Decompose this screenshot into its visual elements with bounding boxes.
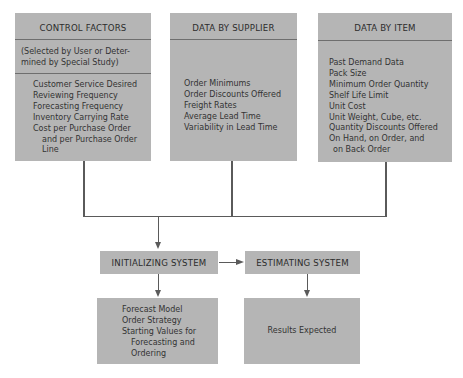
connector-data-by-supplier [231,161,233,217]
list-item: Inventory Carrying Rate [33,113,137,124]
list-item: Freight Rates [184,101,281,112]
control-factors-box: CONTROL FACTORS (Selected by User or Det… [15,13,151,161]
list-item: Pack Size [329,69,438,80]
estimating-system-title: ESTIMATING SYSTEM [245,258,360,268]
divider [15,39,151,40]
list-item: Unit Cost [329,102,438,113]
list-item: Forecasting Frequency [33,102,137,113]
arrow-down-icon [155,290,161,297]
list-item: Quantity Discounts Offered [329,123,438,134]
estimating-output-box: Results Expected [244,298,360,364]
list-item: On Hand, on Order, and [329,134,438,145]
results-expected-label: Results Expected [244,326,360,335]
data-by-item-list: Past Demand Data Pack Size Minimum Order… [329,58,438,156]
list-item: Unit Weight, Cube, etc. [329,113,438,124]
data-by-item-title: DATA BY ITEM [318,23,452,33]
control-factors-subtitle: (Selected by User or Deter- mined by Spe… [21,46,147,68]
list-item: Forecast Model [122,305,196,316]
list-item: and per Purchase Order [33,135,137,146]
connector-estimating-to-output [307,274,309,291]
list-item: Order Discounts Offered [184,90,281,101]
list-item: Reviewing Frequency [33,91,137,102]
connector-to-initializing [158,216,160,243]
data-by-supplier-list: Order Minimums Order Discounts Offered F… [184,79,281,134]
list-item: Order Minimums [184,79,281,90]
connector-init-to-estimating [219,262,237,264]
connector-init-to-output [158,274,160,291]
connector-horizontal-bus [83,216,387,218]
initializing-output-box: Forecast Model Order Strategy Starting V… [97,298,218,364]
data-by-supplier-box: DATA BY SUPPLIER Order Minimums Order Di… [170,13,297,161]
list-item: Customer Service Desired [33,80,137,91]
data-by-item-box: DATA BY ITEM Past Demand Data Pack Size … [318,13,452,162]
initializing-system-box: INITIALIZING SYSTEM [100,251,218,274]
estimating-system-box: ESTIMATING SYSTEM [245,251,360,274]
subtitle-line: (Selected by User or Deter- [21,46,147,57]
list-item: Ordering [122,349,196,360]
data-by-supplier-title: DATA BY SUPPLIER [170,23,297,33]
list-item: Line [33,145,137,156]
list-item: Starting Values for [122,327,196,338]
list-item: on Back Order [329,145,438,156]
connector-control-factors [83,161,85,217]
divider [170,39,297,40]
initializing-output-list: Forecast Model Order Strategy Starting V… [122,305,196,360]
list-item: Shelf Life Limit [329,91,438,102]
control-factors-list: Customer Service Desired Reviewing Frequ… [33,80,137,156]
subtitle-line: mined by Special Study) [21,57,147,68]
list-item: Order Strategy [122,316,196,327]
divider [15,73,151,74]
control-factors-title: CONTROL FACTORS [15,23,151,33]
list-item: Average Lead Time [184,112,281,123]
arrow-down-icon [155,242,161,249]
arrow-down-icon [304,290,310,297]
arrow-right-icon [236,259,244,265]
list-item: Past Demand Data [329,58,438,69]
initializing-system-title: INITIALIZING SYSTEM [100,258,218,268]
divider [318,40,452,41]
list-item: Cost per Purchase Order [33,124,137,135]
list-item: Forecasting and [122,338,196,349]
connector-data-by-item [385,162,387,217]
list-item: Minimum Order Quantity [329,80,438,91]
list-item: Variability in Lead Time [184,123,281,134]
